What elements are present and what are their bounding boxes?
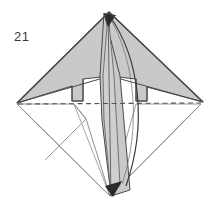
origami-figure-container: 21 (0, 0, 218, 207)
step-number-label: 21 (14, 29, 29, 44)
origami-diagram-svg: 21 (0, 0, 218, 207)
